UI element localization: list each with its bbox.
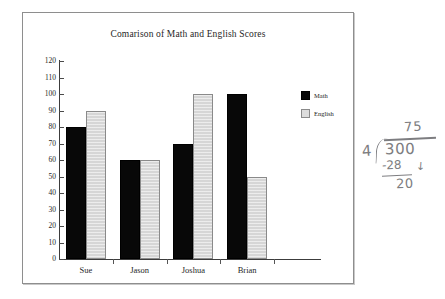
handwriting-divisor: 4 <box>361 142 372 161</box>
x-axis-label-brian: Brian <box>220 265 274 275</box>
y-axis-tick-label: 90 <box>49 106 57 115</box>
x-axis-tick-mark <box>220 259 221 264</box>
bar-joshua-english <box>193 94 213 259</box>
legend-label-math: Math <box>314 92 328 99</box>
handwriting-dividend: 300 <box>385 140 415 159</box>
y-axis-tick-label: 60 <box>49 155 57 164</box>
handwriting-subtrahend: -28 <box>382 158 402 173</box>
x-axis-tick-mark <box>113 259 114 264</box>
y-axis-tick-label: 80 <box>49 122 57 131</box>
handwriting-remainder: 20 <box>396 176 414 192</box>
legend-swatch-english <box>301 109 310 118</box>
legend-label-english: English <box>314 110 334 117</box>
handwritten-long-division-annotation: 4 75 300 -28 ↓ 20 <box>360 118 442 210</box>
legend-swatch-math <box>301 91 310 100</box>
chart-frame: Comarison of Math and English Scores 120… <box>22 12 354 284</box>
x-axis-tick-mark <box>167 259 168 264</box>
x-axis-line <box>59 259 321 260</box>
legend-item-english: English <box>301 109 334 118</box>
y-axis-tick-label: 40 <box>49 188 57 197</box>
legend-item-math: Math <box>301 91 334 100</box>
y-axis-tick-label: 50 <box>49 172 57 181</box>
handwriting-carry-arrow: ↓ <box>416 160 426 174</box>
y-axis-tick-label: 0 <box>52 254 56 263</box>
handwriting-quotient: 75 <box>404 119 423 135</box>
bar-sue-english <box>86 111 106 260</box>
y-axis-tick-label: 120 <box>45 56 56 65</box>
chart-title: Comarison of Math and English Scores <box>23 29 353 39</box>
y-axis-tick-label: 30 <box>49 205 57 214</box>
x-axis-label-jason: Jason <box>113 265 167 275</box>
x-axis-tick-mark <box>274 259 275 264</box>
y-axis-tick-label: 100 <box>45 89 56 98</box>
bar-joshua-math <box>173 144 193 260</box>
y-axis-tick-mark <box>59 259 64 260</box>
bar-jason-math <box>120 160 140 259</box>
bar-brian-math <box>227 94 247 259</box>
bar-sue-math <box>66 127 86 259</box>
bar-brian-english <box>247 177 267 260</box>
y-axis-tick-label: 10 <box>49 238 57 247</box>
x-axis-label-joshua: Joshua <box>167 265 221 275</box>
bar-jason-english <box>140 160 160 259</box>
y-axis-tick-label: 70 <box>49 139 57 148</box>
y-axis-tick-label: 20 <box>49 221 57 230</box>
chart-legend: MathEnglish <box>301 91 334 127</box>
y-axis-tick-label: 110 <box>45 73 56 82</box>
plot-area <box>59 61 274 259</box>
x-axis-label-sue: Sue <box>59 265 113 275</box>
